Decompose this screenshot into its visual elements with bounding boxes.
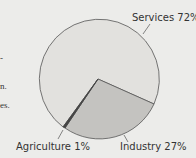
pie-chart: Services 72% Industry 27% Agriculture 1%: [0, 0, 196, 158]
leader-services: [143, 24, 150, 34]
label-agriculture: Agriculture 1%: [16, 141, 90, 152]
label-industry: Industry 27%: [120, 141, 187, 152]
leader-agriculture: [58, 130, 63, 139]
label-services: Services 72%: [132, 12, 196, 23]
